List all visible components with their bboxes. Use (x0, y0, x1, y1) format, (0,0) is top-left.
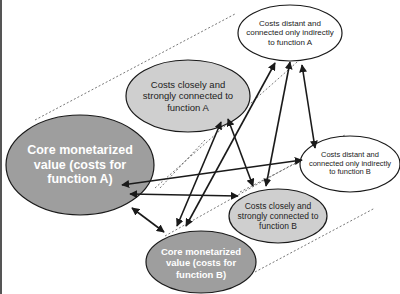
node-core-b-label: Core monetarized value (costs for functi… (148, 242, 254, 284)
arrow-distant-a-distant-b (302, 65, 315, 148)
node-core-a-label: Core monetarized value (costs for functi… (10, 134, 150, 196)
core-a-line-2: value (costs for (27, 158, 133, 173)
core-b-line-3: function B) (161, 269, 241, 280)
arrow-core-a-core-b (132, 208, 164, 232)
close-b-line-1: Costs closely and (238, 201, 319, 211)
core-b-line-2: value (costs for (161, 257, 241, 268)
node-close-b-label: Costs closely and strongly connected to … (228, 198, 328, 234)
close-b-line-2: strongly connected to (238, 211, 319, 221)
close-a-line-1: Costs closely and (143, 79, 233, 90)
node-close-a-label: Costs closely and strongly connected to … (130, 74, 246, 118)
guide-line-a-left (160, 140, 205, 188)
core-a-line-1: Core monetarized (27, 143, 133, 158)
distant-a-line-2: connected only indirectly (246, 28, 334, 37)
core-b-line-1: Core monetarized (161, 246, 241, 257)
distant-a-line-1: Costs distant and (246, 19, 334, 28)
arrow-distant-a-close-b (266, 62, 290, 186)
node-distant-a-label: Costs distant and connected only indirec… (236, 14, 344, 52)
core-a-line-3: function A) (27, 172, 133, 187)
distant-a-line-3: to function A (246, 38, 334, 47)
close-a-line-3: function A (143, 102, 233, 113)
arrow-close-a-close-b (228, 119, 253, 186)
close-b-line-3: function B (238, 221, 319, 231)
distant-b-line-3: to function B (309, 168, 391, 177)
close-a-line-2: strongly connected to (143, 90, 233, 101)
node-distant-b-label: Costs distant and connected only indirec… (298, 146, 400, 182)
